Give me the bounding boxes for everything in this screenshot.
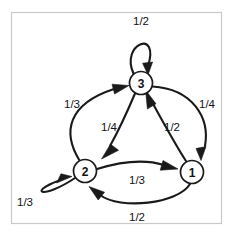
state-diagram-canvas: 1/2 1/3 1/4 1/4 1/2 — [0, 0, 233, 236]
edge-label-3-to-1: 1/4 — [199, 98, 216, 110]
edge-label-1-to-3: 1/2 — [164, 121, 180, 133]
edge-label-1-to-2: 1/2 — [129, 211, 145, 223]
node-1[interactable]: 1 — [181, 161, 204, 184]
edge-label-2-to-1: 1/3 — [129, 174, 145, 186]
node-3[interactable]: 3 — [130, 72, 153, 95]
edge-label-2-to-3: 1/3 — [64, 98, 80, 110]
node-1-label: 1 — [189, 166, 196, 180]
node-3-label: 3 — [138, 77, 145, 91]
node-2[interactable]: 2 — [74, 160, 97, 183]
state-diagram-figure: 1/2 1/3 1/4 1/4 1/2 — [0, 0, 233, 236]
node-2-label: 2 — [82, 165, 89, 179]
edge-label-3-to-2: 1/4 — [101, 121, 118, 133]
edge-label-2-to-2: 1/3 — [17, 196, 33, 208]
edge-label-3-to-3: 1/2 — [133, 15, 149, 27]
